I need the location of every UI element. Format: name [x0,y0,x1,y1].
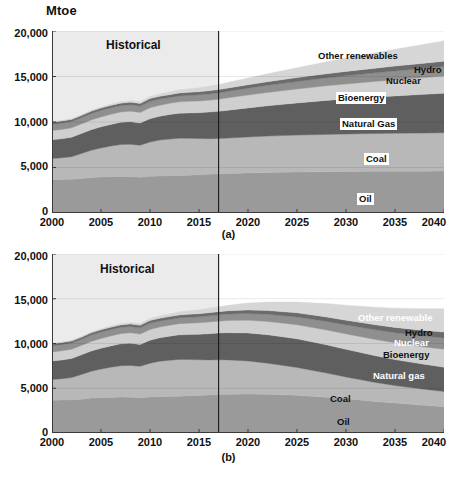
y-tick-label-10000: 10,000 [0,116,48,128]
series-label-oil-b: Oil [337,417,350,427]
series-label-oil-a: Oil [357,193,374,205]
x-tick-label-2000: 2000 [30,216,74,228]
y-tick-label-10000-b: 10,000 [0,338,48,350]
x-tick-label-2025-b: 2025 [275,436,319,448]
chart-panel-b: 20,000 15,000 10,000 5,000 0 2000 2005 2… [0,240,457,477]
y-tick-label-15000-b: 15,000 [0,294,48,306]
y-axis-unit-label: Mtoe [46,3,77,18]
area-series-oil [52,171,444,213]
x-tick-label-2005: 2005 [79,216,123,228]
figure-root: Mtoe 20,000 15,000 10,000 5,000 0 2000 2… [0,0,457,477]
y-tick-label-5000: 5,000 [0,160,48,172]
series-label-nuclear-a: Nuclear [386,76,421,86]
x-tick-label-2030-b: 2030 [324,436,368,448]
series-label-coal-b: Coal [330,394,351,404]
x-tick-label-2025: 2025 [275,216,319,228]
y-tick-label-20000: 20,000 [0,27,48,39]
series-label-bioenergy-a: Bioenergy [336,92,386,104]
x-tick-label-2020: 2020 [226,216,270,228]
x-tick-label-2035: 2035 [373,216,417,228]
x-tick-label-2015-b: 2015 [177,436,221,448]
historical-annotation-b: Historical [100,262,155,276]
y-tick-label-15000: 15,000 [0,71,48,83]
panel-caption-b: (b) [0,451,457,463]
y-tick-label-5000-b: 5,000 [0,382,48,394]
series-label-coal-a: Coal [364,153,389,165]
x-tick-label-2040: 2040 [412,216,456,228]
x-tick-label-2035-b: 2035 [373,436,417,448]
historical-annotation-a: Historical [106,38,161,52]
series-label-other-renewables-a: Other renewables [318,51,398,61]
series-label-natural-gas-b: Natural gas [373,371,425,381]
x-tick-label-2030: 2030 [324,216,368,228]
series-label-bioenergy-b: Bioenergy [383,350,429,360]
series-label-other-renewable-b: Other renewable [358,313,432,323]
y-tick-label-20000-b: 20,000 [0,250,48,262]
x-tick-label-2040-b: 2040 [412,436,456,448]
x-tick-label-2000-b: 2000 [30,436,74,448]
stacked-area-plot-b [52,254,444,433]
series-label-nuclear-b: Nuclear [394,338,429,348]
x-tick-label-2015: 2015 [177,216,221,228]
x-tick-label-2010-b: 2010 [128,436,172,448]
series-label-hydro-a: Hydro [414,65,441,75]
panel-caption-a: (a) [0,228,457,240]
x-tick-label-2010: 2010 [128,216,172,228]
x-tick-label-2020-b: 2020 [226,436,270,448]
chart-panel-a: Mtoe 20,000 15,000 10,000 5,000 0 2000 2… [0,0,457,240]
series-label-natural-gas-a: Natural Gas [340,118,397,130]
x-tick-label-2005-b: 2005 [79,436,123,448]
